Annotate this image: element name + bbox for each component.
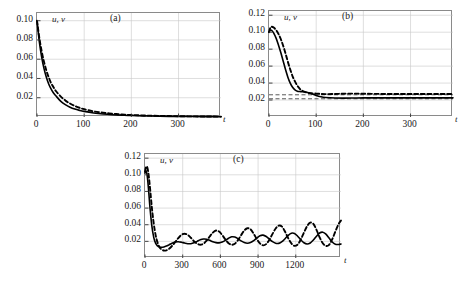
x-tick-label: 200 [347, 119, 377, 129]
panel-b-axis-label-t: t [455, 114, 458, 124]
series-curve-u [269, 30, 453, 98]
x-tick-label: 600 [204, 260, 234, 270]
panel-b-tag: (b) [342, 11, 353, 21]
x-tick-label: 100 [300, 119, 330, 129]
y-tick-label: 0.06 [110, 201, 141, 211]
panel-c-canvas [145, 154, 341, 258]
panel-a-tag: (a) [110, 13, 121, 23]
panel-b-plot-frame [268, 10, 452, 116]
y-tick-label: 0.10 [110, 168, 141, 178]
series-curve-v [37, 21, 221, 117]
y-tick-label: 0.04 [234, 76, 265, 86]
panel-c: u, v (c) t 0.120.100.080.060.040.02 0300… [104, 145, 360, 288]
y-tick-label: 0.12 [234, 8, 265, 18]
panel-b: u, v (b) t 0.120.100.080.060.040.02 0100… [232, 0, 464, 144]
x-tick-label: 0 [129, 260, 159, 270]
panel-c-plot-frame [144, 153, 340, 257]
figure-root: u, v (a) t 0.100.080.060.040.02 01002003… [0, 0, 464, 288]
panel-c-axis-label-t: t [344, 255, 347, 265]
x-tick-label: 1200 [280, 260, 310, 270]
y-tick-label: 0.12 [110, 151, 141, 161]
y-tick-label: 0.10 [234, 25, 265, 35]
x-tick-label: 300 [167, 260, 197, 270]
x-tick-label: 0 [21, 119, 51, 129]
panel-b-axis-label-uv: u, v [284, 12, 297, 22]
y-tick-label: 0.08 [234, 42, 265, 52]
x-tick-label: 900 [242, 260, 272, 270]
y-tick-label: 0.04 [110, 218, 141, 228]
series-curve-u [37, 21, 221, 117]
x-tick-label: 300 [163, 119, 193, 129]
series-curve-v [269, 27, 453, 94]
panel-c-tag: (c) [233, 154, 244, 164]
y-tick-label: 0.08 [110, 184, 141, 194]
x-tick-label: 0 [253, 119, 283, 129]
y-tick-label: 0.06 [234, 59, 265, 69]
panel-a: u, v (a) t 0.100.080.060.040.02 01002003… [0, 0, 232, 144]
panel-a-canvas [37, 13, 221, 117]
panel-a-axis-label-t: t [223, 114, 226, 124]
panel-a-plot-frame [36, 12, 220, 116]
y-tick-label: 0.08 [2, 33, 33, 43]
y-tick-label: 0.06 [2, 52, 33, 62]
series-curve-v [145, 166, 341, 250]
series-curve-u [145, 171, 341, 247]
x-tick-label: 100 [68, 119, 98, 129]
panel-c-axis-label-uv: u, v [160, 155, 173, 165]
y-tick-label: 0.02 [2, 91, 33, 101]
y-tick-label: 0.02 [234, 93, 265, 103]
y-tick-label: 0.04 [2, 71, 33, 81]
panel-a-axis-label-uv: u, v [52, 14, 65, 24]
y-tick-label: 0.02 [110, 234, 141, 244]
x-tick-label: 300 [395, 119, 425, 129]
panel-b-canvas [269, 11, 453, 117]
x-tick-label: 200 [115, 119, 145, 129]
y-tick-label: 0.10 [2, 14, 33, 24]
